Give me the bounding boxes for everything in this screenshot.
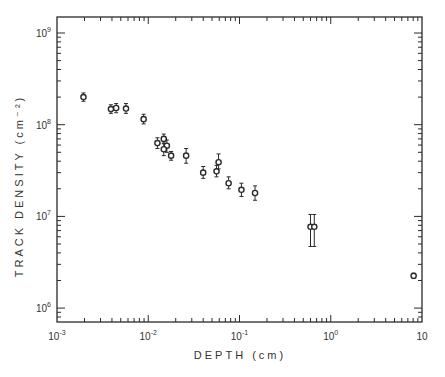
open-circle-marker [312,224,317,229]
x-tick-label: 100 [323,329,338,342]
open-circle-marker [201,170,206,175]
chart: 10-310-210-110010 106107108109 DEPTH (cm… [0,0,445,377]
data-point [239,183,244,196]
open-circle-marker [161,147,166,152]
data-point [155,138,160,149]
open-circle-marker [184,153,189,158]
open-circle-marker [114,105,119,110]
x-axis-label: DEPTH (cm) [194,349,286,361]
data-points [81,93,416,279]
data-point [114,104,119,113]
y-tick-label: 107 [36,209,51,222]
open-circle-marker [169,153,174,158]
axes-box [57,17,422,322]
open-circle-marker [411,273,416,278]
data-point [141,114,146,124]
axis-ticks [57,17,422,322]
data-point [169,152,174,161]
open-circle-marker [81,94,86,99]
open-circle-marker [108,106,113,111]
y-axis-label: TRACK DENSITY (cm⁻²) [13,95,25,278]
y-tick-label: 106 [36,301,51,314]
open-circle-marker [226,181,231,186]
data-point [123,104,128,114]
chart-svg: 10-310-210-110010 106107108109 DEPTH (cm… [0,0,445,377]
x-tick-label: 10-3 [48,329,65,342]
open-circle-marker [141,117,146,122]
data-point [312,214,317,246]
y-tick-label: 109 [36,26,51,39]
open-circle-marker [239,187,244,192]
data-point [108,105,113,114]
open-circle-marker [216,160,221,165]
x-tick-label: 10 [416,331,428,342]
data-point [161,134,166,144]
open-circle-marker [123,106,128,111]
data-point [252,186,257,200]
y-tick-label: 108 [36,118,51,131]
plot-frame [57,17,422,322]
x-tick-label: 10-2 [140,329,157,342]
open-circle-marker [252,190,257,195]
data-point [226,177,231,189]
open-circle-marker [155,141,160,146]
x-tick-labels: 10-310-210-110010 [48,329,428,342]
data-point [201,167,206,179]
data-point [308,214,313,246]
open-circle-marker [161,136,166,141]
open-circle-marker [214,169,219,174]
data-point [411,273,416,278]
data-point [184,149,189,164]
data-point [81,93,86,101]
y-tick-labels: 106107108109 [36,26,51,314]
x-tick-label: 10-1 [231,329,248,342]
